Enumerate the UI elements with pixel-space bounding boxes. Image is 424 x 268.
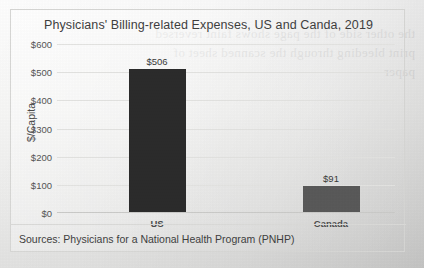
bar-value-label-us: $506 xyxy=(146,56,167,67)
gridline-300 xyxy=(57,129,395,130)
gridline-500 xyxy=(57,72,395,73)
plot-area: $600 $500 $400 $300 $200 $100 $0 $506 $9… xyxy=(57,44,395,213)
scanned-chart-page: the other side of the page shows faint r… xyxy=(0,0,424,268)
bar-canada[interactable] xyxy=(303,186,360,212)
gridline-400 xyxy=(57,100,395,101)
gridline-200 xyxy=(57,157,395,158)
y-tick-label-100: $100 xyxy=(31,180,52,191)
x-axis-line xyxy=(57,212,395,213)
gridline-600 xyxy=(57,44,395,45)
footnote-divider xyxy=(11,224,406,225)
bar-value-label-canada: $91 xyxy=(323,173,339,184)
y-axis-label: $/Capita xyxy=(25,103,37,142)
y-tick-label-600: $600 xyxy=(31,39,52,50)
y-tick-label-300: $300 xyxy=(31,124,52,135)
bar-us[interactable] xyxy=(129,69,186,212)
y-tick-label-500: $500 xyxy=(31,67,52,78)
chart-title: Physicians' Billing-related Expenses, US… xyxy=(11,18,406,32)
y-tick-label-200: $200 xyxy=(31,152,52,163)
y-tick-label-400: $400 xyxy=(31,95,52,106)
y-tick-label-0: $0 xyxy=(41,208,52,219)
source-note: Sources: Physicians for a National Healt… xyxy=(19,233,294,245)
chart-frame: Physicians' Billing-related Expenses, US… xyxy=(10,9,405,252)
